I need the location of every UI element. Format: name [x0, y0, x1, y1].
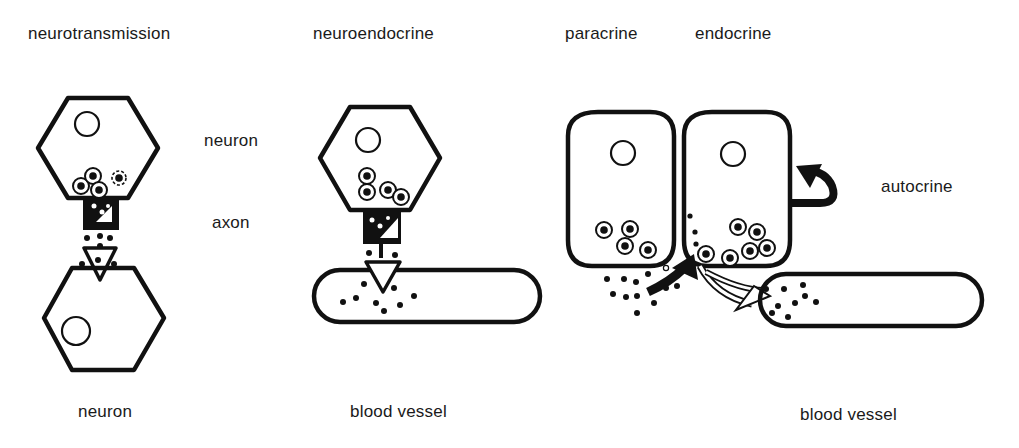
signaling-diagram — [0, 0, 1019, 448]
blood-vessel — [760, 274, 982, 326]
nucleus — [356, 128, 380, 152]
paracrine-arrow-icon — [648, 254, 698, 292]
hormone-dots — [763, 282, 819, 320]
vesicles — [359, 168, 409, 205]
postsynaptic-neuron — [44, 268, 164, 370]
nucleus — [721, 142, 745, 166]
vesicles — [698, 219, 775, 266]
vesicles — [73, 168, 126, 198]
nucleus — [75, 112, 99, 136]
nucleus — [62, 317, 90, 345]
neurotransmission-panel — [38, 98, 164, 370]
nucleus — [611, 141, 635, 165]
blood-vessel — [314, 270, 540, 322]
neuroendocrine-neuron — [320, 107, 440, 210]
autocrine-arrow-icon — [790, 164, 834, 203]
paracrine-endocrine-panel — [568, 112, 982, 326]
vesicles — [596, 221, 656, 258]
neuroendocrine-panel — [314, 107, 540, 322]
paracrine-dots — [604, 265, 680, 316]
